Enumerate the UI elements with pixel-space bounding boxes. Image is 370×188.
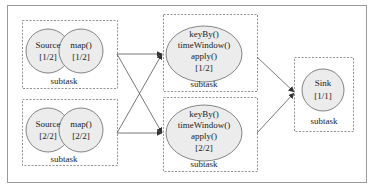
subtask-group-source-map-2: Source [2/2] map() [2/2] subtask (23, 100, 118, 166)
subtask-group-sink: Sink [1/1] subtask (295, 58, 354, 132)
node-label: Source (36, 40, 61, 50)
dataflow-diagram: Source [1/2] map() [1/2] subtask Source … (0, 0, 370, 188)
subtask-label: subtask (191, 79, 219, 89)
node-label: timeWindow() (178, 120, 231, 130)
node-sink (302, 69, 344, 111)
node-label: [1/1] (314, 91, 332, 101)
subtask-label: subtask (51, 154, 79, 164)
subtask-group-window-1: keyBy() timeWindow() apply() [1/2] subta… (164, 15, 258, 92)
subtask-label: subtask (311, 116, 339, 126)
node-label: [1/2] (72, 52, 90, 62)
node-label: [2/2] (39, 131, 57, 141)
node-map-1 (59, 29, 103, 73)
node-label: keyBy() (189, 29, 219, 39)
node-label: [1/2] (195, 63, 213, 73)
subtask-group-window-2: keyBy() timeWindow() apply() [2/2] subta… (164, 98, 258, 172)
subtask-group-source-map-1: Source [1/2] map() [1/2] subtask (23, 21, 118, 89)
node-label: [2/2] (72, 131, 90, 141)
node-label: timeWindow() (178, 40, 231, 50)
node-label: map() (70, 40, 92, 50)
node-label: Source (36, 119, 61, 129)
node-label: [2/2] (195, 143, 213, 153)
node-label: apply() (191, 131, 217, 141)
node-label: keyBy() (189, 109, 219, 119)
node-label: apply() (191, 51, 217, 61)
node-label: map() (70, 119, 92, 129)
node-label: Sink (315, 78, 332, 88)
edge-window2-to-sink (257, 93, 294, 133)
edge-window1-to-sink (257, 57, 294, 92)
subtask-label: subtask (51, 76, 79, 86)
node-map-2 (59, 108, 103, 152)
subtask-label: subtask (191, 159, 219, 169)
node-label: [1/2] (39, 52, 57, 62)
